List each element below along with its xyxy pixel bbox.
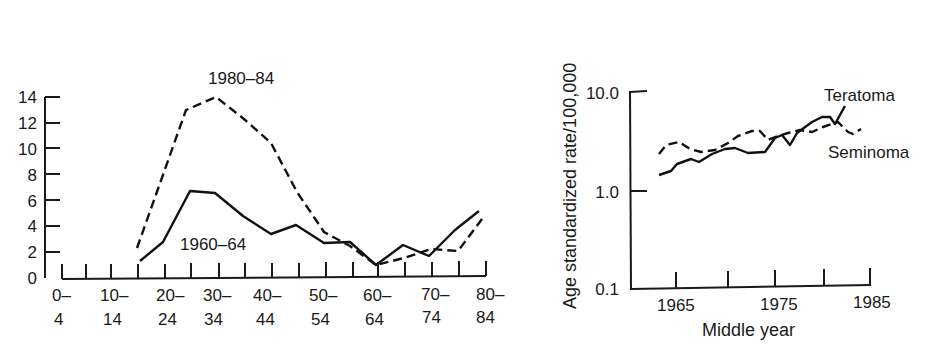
x-tick-50-top: 50–	[309, 286, 338, 305]
x-tick-30-bottom: 34	[204, 310, 223, 329]
label-1960-64: 1960–64	[180, 235, 246, 254]
x-tick-50-bottom: 54	[311, 310, 330, 329]
y-tick-0-1: 0.1	[595, 280, 619, 299]
x-tick-60-bottom: 64	[365, 310, 384, 329]
left-chart: 14 12 10 8 6 4 2 0	[18, 69, 505, 329]
right-chart: Age standardized rate/100,000 10.0 1.0 0…	[560, 63, 910, 340]
y-tick-4: 4	[28, 217, 37, 236]
x-tick-40-top: 40–	[253, 286, 282, 305]
right-x-axis-title: Middle year	[702, 320, 795, 340]
x-tick-0-top: 0–	[52, 286, 71, 305]
y-tick-6: 6	[28, 192, 37, 211]
y-tick-12: 12	[18, 114, 37, 133]
x-tick-80-bottom: 84	[476, 308, 495, 327]
x-tick-1975: 1975	[760, 295, 798, 314]
right-x-tick-labels: 1965 1975 1985	[657, 293, 891, 315]
right-x-axis	[631, 285, 871, 289]
x-tick-0-bottom: 4	[54, 310, 63, 329]
label-seminoma: Seminoma	[828, 143, 910, 162]
x-tick-10-bottom: 14	[103, 310, 122, 329]
label-1980-84: 1980–84	[208, 69, 274, 88]
x-tick-20-top: 20–	[156, 286, 185, 305]
right-y-axis-title: Age standardized rate/100,000	[560, 63, 580, 309]
y-tick-10: 10	[18, 140, 37, 159]
x-tick-80-top: 80–	[476, 285, 505, 304]
left-y-tick-labels: 14 12 10 8 6 4 2 0	[18, 88, 37, 288]
x-tick-1985: 1985	[853, 293, 891, 312]
left-x-axis	[62, 276, 486, 279]
y-tick-0: 0	[28, 269, 37, 288]
figure: 14 12 10 8 6 4 2 0	[0, 0, 937, 354]
y-tick-2: 2	[28, 243, 37, 262]
right-y-ticks	[630, 91, 647, 191]
y-tick-8: 8	[28, 166, 37, 185]
x-tick-20-bottom: 24	[158, 310, 177, 329]
y-tick-10: 10.0	[586, 84, 619, 103]
x-tick-30-top: 30–	[203, 286, 232, 305]
y-tick-1: 1.0	[595, 183, 619, 202]
left-y-ticks	[45, 97, 60, 252]
left-x-tick-labels: 0– 4 10– 14 20– 24 30– 34 40– 44 50– 54 …	[52, 285, 505, 329]
right-y-tick-labels: 10.0 1.0 0.1	[586, 84, 619, 299]
y-tick-14: 14	[18, 88, 37, 107]
x-tick-10-top: 10–	[100, 286, 129, 305]
label-teratoma: Teratoma	[824, 86, 895, 105]
x-tick-1965: 1965	[657, 296, 695, 315]
x-tick-70-bottom: 74	[422, 308, 441, 327]
x-tick-60-top: 60–	[363, 286, 392, 305]
x-tick-70-top: 70–	[421, 285, 450, 304]
series-teratoma-line	[659, 106, 845, 175]
x-tick-40-bottom: 44	[256, 310, 275, 329]
